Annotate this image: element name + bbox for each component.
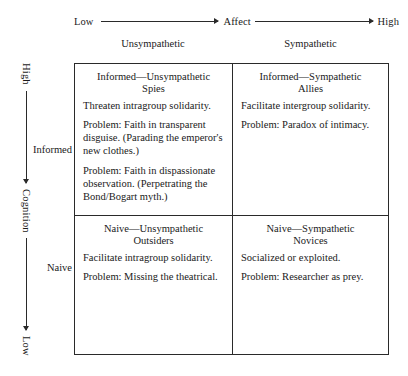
vertical-axis-low-label: Low — [21, 336, 32, 356]
vertical-axis-high-label: High — [21, 63, 32, 85]
cell-paragraph: Problem: Researcher as prey. — [241, 270, 380, 283]
cell-informed-unsympathetic: Informed—Unsympathetic Spies Threaten in… — [75, 64, 233, 216]
vertical-axis: High Cognition Low — [12, 63, 40, 356]
row-label-naive: Naive — [32, 262, 72, 273]
horizontal-axis-high-label: High — [378, 16, 399, 27]
cell-title: Informed—Sympathetic Allies — [241, 71, 380, 96]
row-label-informed: Informed — [32, 144, 72, 155]
cell-paragraph: Problem: Faith in transparent disguise. … — [83, 118, 224, 158]
cell-paragraph: Facilitate intragroup solidarity. — [83, 251, 224, 264]
horizontal-axis-low-label: Low — [74, 16, 94, 27]
vertical-axis-title: Cognition — [21, 189, 32, 233]
column-header-sympathetic: Sympathetic — [232, 38, 389, 49]
vertical-axis-upper-arrow — [26, 91, 27, 183]
matrix-grid: Informed—Unsympathetic Spies Threaten in… — [74, 63, 389, 355]
horizontal-axis-left-arrow — [101, 21, 219, 22]
horizontal-axis-right-arrow — [255, 21, 373, 22]
cell-paragraph: Socialized or exploited. — [241, 251, 380, 264]
vertical-axis-lower-arrow — [26, 238, 27, 330]
typology-matrix-figure: Low Affect High Unsympathetic Sympatheti… — [0, 0, 408, 376]
cell-paragraph: Problem: Missing the theatrical. — [83, 270, 224, 283]
cell-title: Naive—Unsympathetic Outsiders — [83, 223, 224, 248]
cell-naive-sympathetic: Naive—Sympathetic Novices Socialized or … — [233, 216, 388, 354]
horizontal-axis-title: Affect — [220, 16, 253, 27]
cell-paragraph: Threaten intragroup solidarity. — [83, 99, 224, 112]
cell-title: Informed—Unsympathetic Spies — [83, 71, 224, 96]
cell-paragraph: Facilitate intergroup solidarity. — [241, 99, 380, 112]
column-header-unsympathetic: Unsympathetic — [74, 38, 232, 49]
cell-paragraph: Problem: Paradox of intimacy. — [241, 118, 380, 131]
horizontal-axis: Low Affect High — [74, 12, 399, 30]
cell-title: Naive—Sympathetic Novices — [241, 223, 380, 248]
column-headers: Unsympathetic Sympathetic — [74, 38, 389, 56]
cell-informed-sympathetic: Informed—Sympathetic Allies Facilitate i… — [233, 64, 388, 216]
cell-naive-unsympathetic: Naive—Unsympathetic Outsiders Facilitate… — [75, 216, 233, 354]
cell-paragraph: Problem: Faith in dispassionate observat… — [83, 164, 224, 204]
